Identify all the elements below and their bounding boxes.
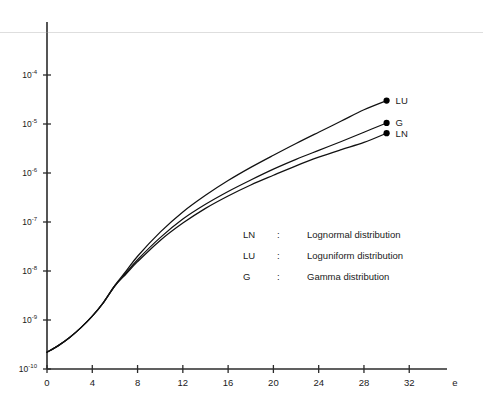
curves-layer xyxy=(47,101,387,353)
legend-key-ln: LN xyxy=(243,229,255,240)
legend-description-lu: Loguniform distribution xyxy=(307,250,403,261)
legend-separator: : xyxy=(277,229,280,240)
y-tick-label: 10-7 xyxy=(22,216,37,227)
y-tick-label: 10-8 xyxy=(22,265,37,276)
semilog-plot: 10-410-510-610-710-810-910-1004812162024… xyxy=(0,0,483,398)
markers-layer xyxy=(384,98,390,137)
legend-separator: : xyxy=(277,250,280,261)
data-curve-ln xyxy=(47,133,387,352)
x-tick-label: 24 xyxy=(313,377,324,388)
y-tick-label: 10-4 xyxy=(22,69,37,80)
x-tick-label: 28 xyxy=(359,377,370,388)
x-tick-label: 32 xyxy=(404,377,415,388)
endpoint-label-g: G xyxy=(396,117,403,128)
x-tick-label: 8 xyxy=(135,377,140,388)
data-curve-lu xyxy=(47,101,387,353)
x-axis-label: e xyxy=(452,377,457,388)
endpoint-label-lu: LU xyxy=(396,95,408,106)
chart-figure: 10-410-510-610-710-810-910-1004812162024… xyxy=(0,0,483,398)
x-tick-label: 0 xyxy=(44,377,49,388)
y-tick-label: 10-5 xyxy=(22,118,37,129)
axes-layer xyxy=(47,22,447,369)
x-tick-label: 16 xyxy=(223,377,234,388)
y-tick-label: 10-10 xyxy=(19,363,38,374)
legend-layer: LN:Lognormal distributionLU:Loguniform d… xyxy=(243,229,403,282)
y-tick-label: 10-9 xyxy=(22,314,37,325)
legend-key-g: G xyxy=(243,271,250,282)
x-tick-label: 20 xyxy=(268,377,279,388)
legend-key-lu: LU xyxy=(243,250,255,261)
x-tick-label: 4 xyxy=(90,377,95,388)
endpoint-label-ln: LN xyxy=(396,128,408,139)
ticks-layer xyxy=(43,75,409,373)
endpoint-marker-lu xyxy=(384,98,390,104)
legend-description-ln: Lognormal distribution xyxy=(307,229,400,240)
y-tick-label: 10-6 xyxy=(22,167,37,178)
scan-artifact-line xyxy=(0,32,483,33)
endpoint-marker-g xyxy=(384,120,390,126)
legend-description-g: Gamma distribution xyxy=(307,271,389,282)
legend-separator: : xyxy=(277,271,280,282)
x-tick-label: 12 xyxy=(178,377,189,388)
endpoint-marker-ln xyxy=(384,130,390,136)
